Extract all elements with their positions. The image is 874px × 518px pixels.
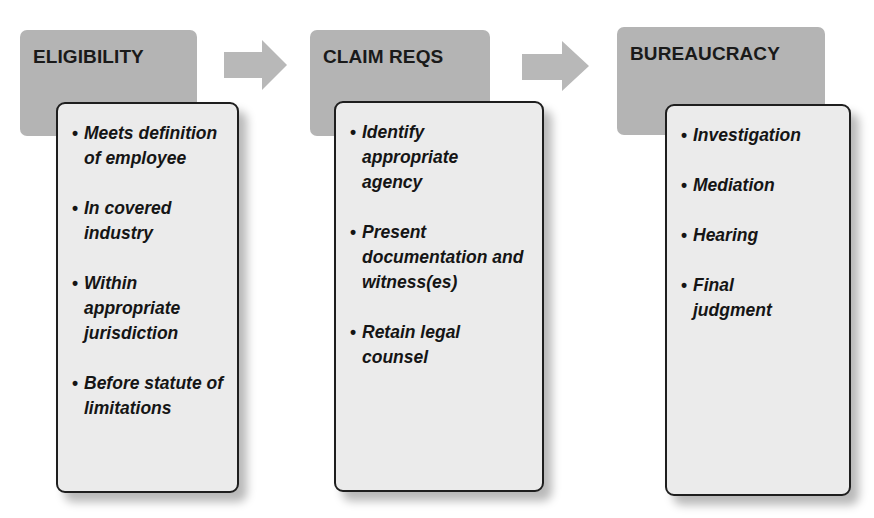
stage-card-bureaucracy: •Investigation •Mediation •Hearing •Fina… bbox=[665, 104, 851, 496]
list-item: •Before statute of limitations bbox=[74, 371, 234, 421]
bullet-icon: • bbox=[681, 123, 687, 148]
list-item: •Investigation bbox=[683, 123, 843, 148]
bullet-icon: • bbox=[72, 271, 78, 296]
list-item: •Retain legal counsel bbox=[352, 320, 502, 370]
stage-card-eligibility: •Meets definition of employee •In covere… bbox=[56, 102, 239, 493]
bullet-icon: • bbox=[681, 223, 687, 248]
bullet-icon: • bbox=[72, 371, 78, 396]
list-item: •Within appropriate jurisdiction bbox=[74, 271, 204, 346]
stage-item-list: •Identify appropriate agency •Present do… bbox=[352, 120, 532, 370]
list-item: •Present documentation and witness(es) bbox=[352, 220, 537, 295]
bullet-icon: • bbox=[681, 173, 687, 198]
list-item: •Hearing bbox=[683, 223, 843, 248]
bullet-icon: • bbox=[350, 120, 356, 145]
right-arrow-icon bbox=[224, 40, 290, 92]
stage-item-list: •Meets definition of employee •In covere… bbox=[74, 121, 227, 421]
list-item: •Meets definition of employee bbox=[74, 121, 224, 171]
stage-card-claim-reqs: •Identify appropriate agency •Present do… bbox=[334, 101, 544, 492]
right-arrow-icon bbox=[522, 41, 592, 93]
stage-title: BUREAUCRACY bbox=[630, 43, 780, 64]
bullet-icon: • bbox=[72, 121, 78, 146]
bullet-icon: • bbox=[350, 220, 356, 245]
stage-title: CLAIM REQS bbox=[323, 46, 443, 67]
bullet-icon: • bbox=[681, 273, 687, 298]
bullet-icon: • bbox=[350, 320, 356, 345]
stage-title: ELIGIBILITY bbox=[33, 46, 144, 67]
list-item: •In covered industry bbox=[74, 196, 204, 246]
bullet-icon: • bbox=[72, 196, 78, 221]
stage-item-list: •Investigation •Mediation •Hearing •Fina… bbox=[683, 123, 839, 323]
list-item: •Identify appropriate agency bbox=[352, 120, 492, 195]
list-item: •Mediation bbox=[683, 173, 843, 198]
list-item: •Final judgment bbox=[683, 273, 793, 323]
